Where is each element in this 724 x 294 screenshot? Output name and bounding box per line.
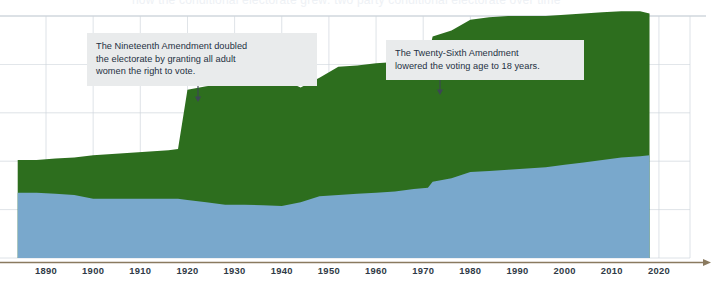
chart-canvas: how the conditional electorate grew: two… (0, 0, 724, 294)
x-axis-tick-1900: 1900 (73, 265, 113, 276)
x-axis-tick-2010: 2010 (592, 265, 632, 276)
x-axis-tick-1930: 1930 (215, 265, 255, 276)
x-axis-tick-2020: 2020 (639, 265, 679, 276)
x-axis-tick-1890: 1890 (26, 265, 66, 276)
x-axis-tick-2000: 2000 (545, 265, 585, 276)
annotation-twenty-sixth-amendment: The Twenty-Sixth Amendment lowered the v… (386, 40, 584, 80)
x-axis-tick-1940: 1940 (262, 265, 302, 276)
x-axis-tick-1920: 1920 (167, 265, 207, 276)
x-axis-tick-1990: 1990 (498, 265, 538, 276)
x-axis-tick-1980: 1980 (450, 265, 490, 276)
x-axis-tick-1950: 1950 (309, 265, 349, 276)
x-axis-tick-1970: 1970 (403, 265, 443, 276)
x-axis-tick-1910: 1910 (120, 265, 160, 276)
annotation-nineteenth-amendment: The Nineteenth Amendment doubled the ele… (87, 33, 317, 86)
x-axis-tick-1960: 1960 (356, 265, 396, 276)
